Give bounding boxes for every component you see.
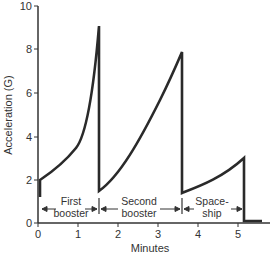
y-tick-label: 4	[26, 131, 32, 143]
x-ticks: 0 1 2 3 4 5	[35, 223, 241, 240]
x-tick-label: 0	[35, 228, 41, 240]
acceleration-curve	[40, 26, 262, 221]
y-tick-label: 8	[26, 43, 32, 55]
x-tick-label: 2	[115, 228, 121, 240]
x-tick-label: 1	[75, 228, 81, 240]
x-axis-title: Minutes	[131, 242, 170, 254]
y-tick-label: 10	[20, 0, 32, 12]
phase-label-spaceship: ship	[202, 207, 221, 219]
y-tick-label: 6	[26, 87, 32, 99]
phase-label-second-booster: booster	[121, 207, 157, 219]
phase-label-first-booster: First	[61, 195, 81, 207]
phase-label-second-booster: Second	[121, 195, 157, 207]
y-ticks: 0 2 4 6 8 10	[20, 0, 38, 229]
x-tick-label: 5	[235, 228, 241, 240]
y-tick-label: 0	[26, 217, 32, 229]
x-tick-label: 4	[195, 228, 201, 240]
phase-label-first-booster: booster	[53, 207, 89, 219]
x-tick-label: 3	[155, 228, 161, 240]
acceleration-chart: 0 2 4 6 8 10 0 1 2 3 4 5 Minutes Acceler…	[0, 0, 276, 257]
phase-label-spaceship: Space-	[195, 195, 229, 207]
y-tick-label: 2	[26, 174, 32, 186]
y-axis-title: Acceleration (G)	[2, 75, 14, 154]
